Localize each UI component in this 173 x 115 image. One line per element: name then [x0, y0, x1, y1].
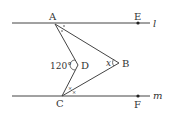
label-e: E — [134, 11, 141, 22]
label-l: l — [153, 18, 156, 29]
geometry-diagram: × × A E l D B 120° x C F m — [0, 0, 173, 115]
angle-mark-a2 — [61, 30, 63, 32]
label-b: B — [122, 58, 129, 69]
label-m: m — [153, 90, 162, 101]
label-d: D — [81, 60, 89, 71]
label-a: A — [48, 11, 57, 22]
label-f: F — [134, 99, 141, 110]
angle-mark-c2: × — [72, 89, 76, 95]
label-c: C — [56, 98, 64, 109]
label-angle-x: x — [106, 58, 111, 68]
point-f-dot — [136, 94, 139, 97]
label-angle-d: 120° — [50, 61, 72, 71]
angle-mark-a1 — [63, 25, 65, 27]
